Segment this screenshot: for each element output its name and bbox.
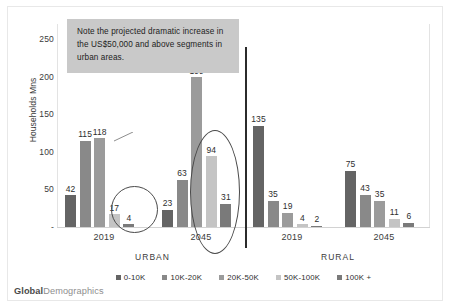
bar-group: 135351942 — [253, 24, 331, 227]
x-axis-year-label: 2019 — [262, 232, 322, 242]
bar-value-label: 23 — [157, 198, 178, 208]
bar-value-label: 2 — [306, 214, 327, 224]
bar-20k-50k-2019-urban[interactable] — [94, 138, 105, 227]
legend-item-20k-50k[interactable]: 20K-50K — [219, 273, 259, 282]
y-axis-tick-label: 200 — [20, 72, 54, 82]
y-axis-tick-label: 150 — [20, 109, 54, 119]
legend-swatch-icon — [276, 275, 281, 280]
bar-0-10k-2019-urban[interactable] — [65, 195, 76, 227]
x-axis-region-label-urban: URBAN — [113, 252, 193, 262]
legend-item-0-10k[interactable]: 0-10K — [116, 273, 146, 282]
bar-100k-2019-rural[interactable] — [311, 226, 322, 228]
urban-rural-divider-line — [245, 47, 247, 248]
brand-part-demographics: Demographics — [43, 286, 103, 296]
legend-swatch-icon — [219, 275, 224, 280]
legend-label: 10K-20K — [170, 273, 202, 282]
legend-swatch-icon — [337, 275, 342, 280]
bar-0-10k-2045-rural[interactable] — [345, 171, 356, 227]
bar-value-label: 6 — [398, 211, 419, 221]
legend-item-100k[interactable]: 100K + — [337, 273, 371, 282]
x-axis-region-label-rural: RURAL — [298, 252, 378, 262]
legend-item-50k-100k[interactable]: 50K-100K — [276, 273, 320, 282]
bar-value-label: 19 — [277, 201, 298, 211]
x-axis-year-label: 2045 — [354, 232, 414, 242]
bar-10k-20k-2019-urban[interactable] — [80, 141, 91, 227]
bar-value-label: 63 — [172, 168, 193, 178]
legend-swatch-icon — [162, 275, 167, 280]
leader-line — [114, 132, 134, 142]
bar-value-label: 42 — [60, 184, 81, 194]
chart-legend: 0-10K10K-20K20K-50K50K-100K100K + — [57, 270, 430, 284]
legend-item-10k-20k[interactable]: 10K-20K — [162, 273, 202, 282]
bar-100k-2045-rural[interactable] — [403, 223, 414, 228]
legend-label: 100K + — [345, 273, 371, 282]
bar-value-label: 75 — [340, 159, 361, 169]
legend-label: 20K-50K — [227, 273, 259, 282]
bar-value-label: 135 — [248, 114, 269, 124]
x-axis-year-label: 2045 — [171, 232, 231, 242]
legend-label: 0-10K — [124, 273, 146, 282]
y-axis-tick-label: - — [20, 222, 54, 232]
legend-label: 50K-100K — [284, 273, 320, 282]
bar-10k-20k-2045-rural[interactable] — [360, 195, 371, 227]
y-axis: Households Mns 25020015010050- — [14, 0, 54, 308]
y-axis-tick-label: 100 — [20, 147, 54, 157]
x-axis-baseline — [57, 227, 430, 228]
bar-0-10k-2019-rural[interactable] — [253, 126, 264, 228]
bar-value-label: 118 — [89, 127, 110, 137]
bar-value-label: 35 — [369, 189, 390, 199]
y-axis-tick-label: 50 — [20, 184, 54, 194]
x-axis-year-label: 2019 — [74, 232, 134, 242]
legend-swatch-icon — [116, 275, 121, 280]
bar-group: 754335116 — [345, 24, 423, 227]
chart-canvas: Households Mns 25020015010050- 421151181… — [0, 0, 450, 308]
note-callout-text: Note the projected dramatic increase in … — [77, 25, 233, 65]
brand-logo: GlobalDemographics — [14, 286, 104, 296]
brand-part-global: Global — [14, 286, 43, 296]
highlight-ellipse-urban-2019 — [111, 186, 158, 233]
bar-value-label: 35 — [263, 189, 284, 199]
bar-50k-100k-2019-rural[interactable] — [297, 224, 308, 227]
note-callout-box: Note the projected dramatic increase in … — [67, 19, 239, 73]
bar-10k-20k-2045-urban[interactable] — [177, 180, 188, 227]
bar-0-10k-2045-urban[interactable] — [162, 210, 173, 227]
y-axis-tick-label: 250 — [20, 34, 54, 44]
